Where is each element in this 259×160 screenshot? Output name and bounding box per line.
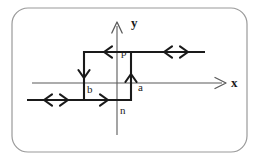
diagram-canvas: [0, 0, 259, 160]
conductor-path-group: [27, 51, 205, 101]
x-axis-label: x: [231, 76, 238, 89]
rounded-frame: [12, 8, 247, 152]
figure-container: y x p a b n: [0, 0, 259, 160]
point-label-p: p: [121, 47, 127, 58]
direction-arrowheads-group: [44, 46, 188, 105]
point-label-n: n: [120, 105, 126, 116]
point-label-b: b: [87, 84, 93, 95]
point-label-a: a: [138, 82, 143, 93]
y-axis-label: y: [131, 16, 138, 29]
